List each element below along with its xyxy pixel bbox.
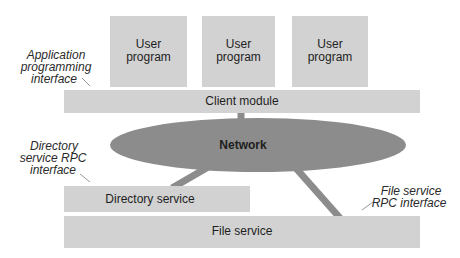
- api-leader-line: [82, 78, 90, 86]
- file-service: File service: [64, 216, 420, 248]
- directory-rpc-leader-line: [80, 174, 90, 182]
- file-rpc-annotation-line2: RPC interface: [372, 196, 447, 210]
- directory-rpc-annotation-line3: interface: [30, 163, 76, 177]
- directory-service-label: Directory service: [105, 192, 195, 206]
- directory-service: Directory service: [64, 186, 250, 212]
- file-service-label: File service: [212, 224, 273, 238]
- network: Network: [110, 118, 406, 172]
- user-program-1-line2: program: [126, 50, 171, 64]
- api-annotation: Application programming interface: [20, 48, 92, 86]
- api-annotation-line3: interface: [31, 72, 77, 86]
- user-program-2: User program: [202, 16, 275, 87]
- user-program-2-line1: User: [226, 37, 251, 51]
- architecture-diagram: User program User program User program C…: [0, 0, 460, 258]
- directory-rpc-annotation: Directory service RPC interface: [20, 139, 90, 182]
- network-file-link: [294, 166, 340, 218]
- file-rpc-annotation: File service RPC interface: [362, 184, 447, 210]
- client-module: Client module: [64, 90, 420, 113]
- user-program-1-line1: User: [136, 37, 161, 51]
- network-label: Network: [219, 138, 267, 152]
- user-program-3: User program: [292, 16, 368, 87]
- client-module-label: Client module: [205, 94, 279, 108]
- user-program-2-line2: program: [216, 50, 261, 64]
- user-program-3-line2: program: [308, 50, 353, 64]
- user-program-1: User program: [110, 16, 187, 87]
- user-program-3-line1: User: [317, 37, 342, 51]
